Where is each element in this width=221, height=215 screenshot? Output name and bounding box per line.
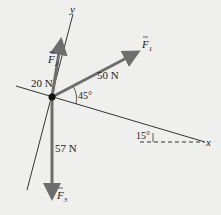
force-arrow-f1	[52, 52, 138, 97]
force-diagram: y x 15° 45° F1 50 N F2 20 N F3 57 N	[0, 0, 221, 215]
angle-arc-45	[73, 86, 77, 104]
force-arrow-f2	[52, 40, 61, 97]
magnitude-label-f3: 57 N	[55, 142, 77, 154]
magnitude-label-f2: 20 N	[31, 77, 53, 89]
x-axis	[16, 86, 205, 142]
tilt-angle-label: 15°	[136, 130, 150, 141]
force-label-f2: F2	[47, 53, 59, 68]
force-label-f3: F3	[56, 189, 68, 204]
x-axis-label: x	[205, 136, 211, 148]
angle-label-45: 45°	[78, 90, 92, 101]
force-label-f1: F1	[141, 38, 152, 53]
magnitude-label-f1: 50 N	[97, 69, 119, 81]
origin-point	[49, 94, 56, 101]
y-axis	[27, 14, 73, 190]
y-axis-label: y	[69, 3, 75, 15]
